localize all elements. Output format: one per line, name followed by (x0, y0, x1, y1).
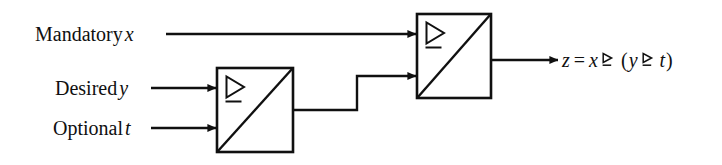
output-expression: z = x ( y t ) (562, 50, 674, 70)
input-label-t: Optionalt (53, 118, 131, 138)
block-2 (417, 14, 491, 98)
output-inner-left-operand: y (629, 50, 638, 70)
input-label-x: Mandatoryx (35, 24, 134, 44)
input-qualifier-x: Mandatory (35, 23, 123, 45)
input-label-y: Desiredy (55, 78, 128, 98)
input-qualifier-t: Optional (53, 117, 123, 139)
operator-triangle-icon-inner (641, 52, 657, 68)
operator-triangle-icon (601, 52, 617, 68)
input-variable-y: y (117, 77, 128, 99)
output-equals-sign: = (570, 50, 589, 70)
output-result-variable: z (562, 50, 570, 70)
input-variable-x: x (123, 23, 134, 45)
output-open-paren: ( (620, 50, 629, 70)
block-1 (217, 68, 293, 152)
block-diagram-figure: Mandatoryx Desiredy Optionalt z = x ( y … (0, 0, 722, 165)
output-close-paren: ) (665, 50, 674, 70)
input-qualifier-y: Desired (55, 77, 117, 99)
output-left-operand: x (589, 50, 598, 70)
input-variable-t: t (123, 117, 131, 139)
connector-block1-to-block2 (294, 76, 416, 110)
